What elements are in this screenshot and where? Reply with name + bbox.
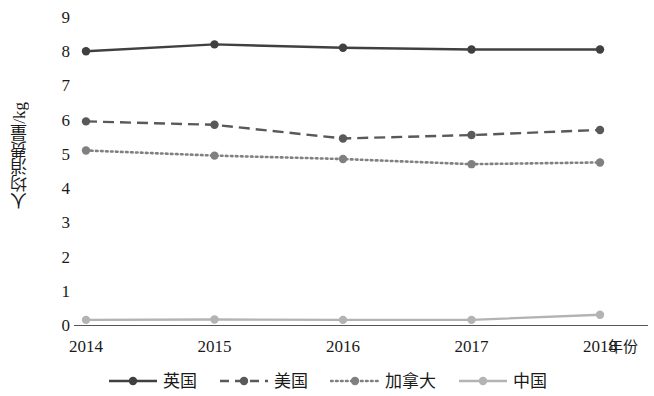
data-point [339, 134, 347, 142]
data-point [596, 158, 604, 166]
data-point [82, 146, 90, 154]
legend-marker-icon [108, 374, 158, 388]
x-axis-tick-label: 2015 [180, 338, 250, 355]
legend-label: 中国 [513, 373, 547, 390]
series-英国 [82, 40, 604, 55]
data-point [467, 316, 475, 324]
data-point [82, 117, 90, 125]
x-axis-tick-label: 2016 [308, 338, 378, 355]
legend-item-英国[interactable]: 英国 [108, 373, 197, 390]
data-point [339, 44, 347, 52]
legend-marker-icon [219, 374, 269, 388]
line-chart: 人均消费量/kg 0123456789 20142015201620172018… [0, 0, 654, 396]
x-axis-tick-label: 2014 [51, 338, 121, 355]
legend-item-美国[interactable]: 美国 [219, 373, 308, 390]
data-point [82, 316, 90, 324]
data-point [210, 121, 218, 129]
data-point [596, 126, 604, 134]
series-中国 [82, 311, 604, 325]
x-axis-title: 年份 [608, 340, 638, 355]
legend-marker-icon [458, 374, 508, 388]
data-point [596, 45, 604, 53]
data-point [210, 315, 218, 323]
data-point [210, 151, 218, 159]
data-point [339, 316, 347, 324]
chart-legend: 英国美国加拿大中国 [0, 366, 654, 396]
legend-label: 加拿大 [385, 373, 436, 390]
legend-item-中国[interactable]: 中国 [458, 373, 547, 390]
series-美国 [82, 117, 604, 143]
x-axis-tick-label: 2017 [437, 338, 507, 355]
legend-marker-icon [330, 374, 380, 388]
series-加拿大 [82, 146, 604, 168]
legend-label: 英国 [163, 373, 197, 390]
legend-item-加拿大[interactable]: 加拿大 [330, 373, 436, 390]
legend-label: 美国 [274, 373, 308, 390]
data-point [467, 45, 475, 53]
data-point [596, 311, 604, 319]
data-point [82, 47, 90, 55]
data-point [467, 160, 475, 168]
data-point [467, 131, 475, 139]
data-point [339, 155, 347, 163]
data-point [210, 40, 218, 48]
